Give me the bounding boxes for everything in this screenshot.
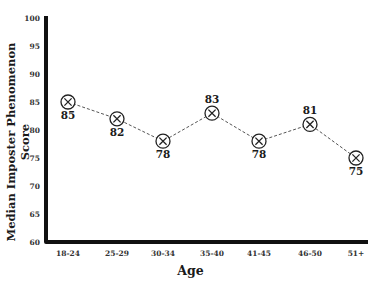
axes	[46, 16, 368, 242]
x-tick-label: 46-50	[298, 249, 322, 258]
data-point-marker	[61, 95, 75, 109]
chart-canvas: 606570758085909510018-2425-2930-3435-404…	[0, 0, 381, 287]
data-point-marker	[205, 106, 219, 120]
x-tick-label: 30-34	[151, 249, 175, 258]
data-label: 83	[205, 93, 220, 105]
data-point-marker	[303, 117, 317, 131]
y-tick-label: 100	[24, 14, 40, 23]
x-axis-label: Age	[0, 263, 381, 278]
data-label: 75	[349, 165, 364, 177]
line-chart: 606570758085909510018-2425-2930-3435-404…	[0, 0, 381, 287]
data-point-marker	[156, 134, 170, 148]
data-label: 82	[110, 126, 125, 138]
data-label: 85	[61, 109, 76, 121]
data-label: 81	[303, 104, 318, 116]
x-tick-label: 18-24	[56, 249, 80, 258]
data-point-marker	[110, 112, 124, 126]
data-label: 78	[156, 148, 171, 160]
x-tick-label: 51+	[348, 249, 365, 258]
x-tick-label: 25-29	[105, 249, 129, 258]
data-point-marker	[252, 134, 266, 148]
y-axis-label: Median Imposter Phenomenon Score	[4, 32, 32, 252]
data-label: 78	[252, 148, 267, 160]
x-tick-label: 35-40	[200, 249, 224, 258]
x-tick-label: 41-45	[247, 249, 271, 258]
data-point-marker	[349, 151, 363, 165]
